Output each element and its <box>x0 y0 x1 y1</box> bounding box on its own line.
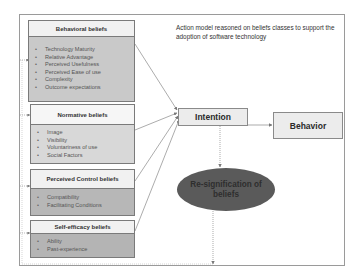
bullet-icon: • <box>35 54 45 62</box>
resignification-ellipse: Re-signification of beliefs <box>177 168 275 211</box>
perceived-control-beliefs-list: •Compatibility •Facilitating Conditions <box>37 194 134 209</box>
normative-beliefs-header: Normative beliefs <box>31 105 134 125</box>
behavioral-beliefs-list: •Technology Maturity •Relative Advantage… <box>35 46 134 92</box>
self-efficacy-beliefs-header: Self-efficacy beliefs <box>31 221 134 234</box>
list-item: •Perceived Usefulness <box>35 61 134 69</box>
behavior-node: Behavior <box>273 112 343 139</box>
bullet-icon: • <box>37 194 47 202</box>
perceived-control-beliefs-box: Perceived Control beliefs •Compatibility… <box>30 169 135 216</box>
list-item: •Outcome expectations <box>35 84 134 92</box>
diagram-title: Action model reasoned on beliefs classes… <box>176 23 344 41</box>
list-item: •Relative Advantage <box>35 54 134 62</box>
bullet-icon: • <box>35 46 45 54</box>
list-item: •Compatibility <box>37 194 134 202</box>
list-item: •Perceived Ease of use <box>35 69 134 77</box>
list-item: •Visibility <box>37 137 134 145</box>
list-item: •Social Factors <box>37 152 134 160</box>
list-item: •Technology Maturity <box>35 46 134 54</box>
list-item: •Facilitating Conditions <box>37 202 134 210</box>
list-item: •Image <box>37 129 134 137</box>
self-efficacy-beliefs-box: Self-efficacy beliefs •Ability •Past-exp… <box>30 220 135 258</box>
bullet-icon: • <box>37 137 47 145</box>
behavioral-beliefs-header: Behavioral beliefs <box>29 21 134 37</box>
self-efficacy-beliefs-list: •Ability •Past-experience <box>37 238 134 253</box>
list-item: •Ability <box>37 238 134 246</box>
bullet-icon: • <box>35 69 45 77</box>
bullet-icon: • <box>37 246 47 254</box>
behavioral-beliefs-box: Behavioral beliefs •Technology Maturity … <box>28 20 135 102</box>
perceived-control-beliefs-header: Perceived Control beliefs <box>31 170 134 189</box>
bullet-icon: • <box>37 202 47 210</box>
intention-node: Intention <box>178 108 248 126</box>
bullet-icon: • <box>35 61 45 69</box>
normative-beliefs-box: Normative beliefs •Image •Visibility •Vo… <box>30 104 135 164</box>
bullet-icon: • <box>35 84 45 92</box>
bullet-icon: • <box>37 152 47 160</box>
list-item: •Past-experience <box>37 246 134 254</box>
bullet-icon: • <box>37 144 47 152</box>
normative-beliefs-list: •Image •Visibility •Voluntariness of use… <box>37 129 134 159</box>
bullet-icon: • <box>35 76 45 84</box>
bullet-icon: • <box>37 129 47 137</box>
list-item: •Complexity <box>35 76 134 84</box>
list-item: •Voluntariness of use <box>37 144 134 152</box>
bullet-icon: • <box>37 238 47 246</box>
